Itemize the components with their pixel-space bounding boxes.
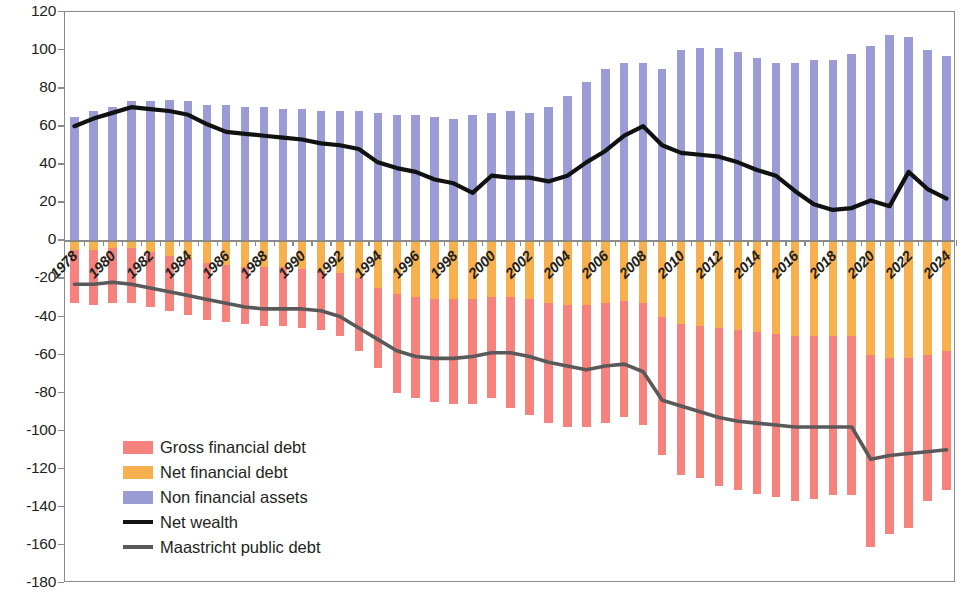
- x-axis-tick-mark: [406, 240, 407, 246]
- bar-non-financial-assets: [791, 63, 800, 240]
- x-axis-tick-mark: [349, 240, 350, 246]
- y-axis-tick-label: -100: [0, 421, 56, 439]
- bar-non-financial-assets: [904, 37, 913, 241]
- legend-label: Net financial debt: [160, 463, 288, 482]
- x-axis-tick-mark: [691, 240, 692, 246]
- bar-non-financial-assets: [525, 113, 534, 241]
- x-axis-tick-mark: [785, 240, 786, 246]
- x-axis-tick-mark: [236, 240, 237, 246]
- legend-swatch-1: [123, 466, 153, 479]
- bar-non-financial-assets: [639, 63, 648, 240]
- bar-net-financial-debt: [70, 240, 79, 250]
- x-axis-tick-mark: [804, 240, 805, 246]
- bar-non-financial-assets: [317, 111, 326, 240]
- bar-non-financial-assets: [563, 96, 572, 241]
- y-axis-tick-label: -160: [0, 535, 56, 553]
- x-axis-tick-mark: [861, 240, 862, 246]
- bar-net-financial-debt: [696, 240, 705, 326]
- bar-non-financial-assets: [506, 111, 515, 240]
- bar-net-financial-debt: [89, 240, 98, 250]
- x-axis-tick-mark: [577, 240, 578, 246]
- bar-net-financial-debt: [772, 240, 781, 333]
- legend-swatch-2: [123, 491, 153, 504]
- legend-item: Maastricht public debt: [123, 535, 321, 560]
- x-axis-tick-mark: [311, 240, 312, 246]
- x-axis-tick-mark: [141, 240, 142, 246]
- y-axis-tick-label: 60: [0, 116, 56, 134]
- bar-non-financial-assets: [658, 69, 667, 240]
- bar-non-financial-assets: [260, 107, 269, 240]
- x-axis-tick-mark: [634, 240, 635, 246]
- x-axis-tick-mark: [122, 240, 123, 246]
- x-axis-tick-mark: [956, 240, 957, 246]
- bar-non-financial-assets: [582, 82, 591, 240]
- y-axis-tick-label: -40: [0, 307, 56, 325]
- bar-non-financial-assets: [923, 50, 932, 240]
- bar-non-financial-assets: [184, 101, 193, 240]
- x-axis-tick-mark: [520, 240, 521, 246]
- x-axis-tick-mark: [292, 240, 293, 246]
- bar-non-financial-assets: [885, 35, 894, 241]
- legend-line-3: [123, 520, 153, 525]
- bar-non-financial-assets: [487, 113, 496, 241]
- x-axis-tick-mark: [653, 240, 654, 246]
- legend-item: Net wealth: [123, 510, 321, 535]
- bar-non-financial-assets: [468, 115, 477, 241]
- chart-container: 120100806040200-20-40-60-80-100-120-140-…: [0, 0, 961, 594]
- bar-non-financial-assets: [715, 48, 724, 240]
- bar-non-financial-assets: [165, 100, 174, 241]
- x-axis-tick-mark: [84, 240, 85, 246]
- x-axis-tick-mark: [558, 240, 559, 246]
- y-axis-tick-label: 0: [0, 230, 56, 248]
- bar-non-financial-assets: [753, 58, 762, 241]
- bar-non-financial-assets: [108, 107, 117, 240]
- x-axis-tick-mark: [766, 240, 767, 246]
- x-axis-tick-mark: [918, 240, 919, 246]
- bar-net-financial-debt: [810, 240, 819, 335]
- x-axis-tick-mark: [729, 240, 730, 246]
- chart-legend: Gross financial debtNet financial debtNo…: [123, 435, 321, 560]
- x-axis-tick-mark: [710, 240, 711, 246]
- x-axis-tick-mark: [672, 240, 673, 246]
- y-axis-tick-label: -120: [0, 459, 56, 477]
- x-axis-tick-mark: [368, 240, 369, 246]
- x-axis-tick-mark: [539, 240, 540, 246]
- x-axis-tick-mark: [198, 240, 199, 246]
- legend-label: Non financial assets: [160, 488, 308, 507]
- legend-swatch-0: [123, 441, 153, 454]
- x-axis-tick-mark: [217, 240, 218, 246]
- x-axis-tick-mark: [274, 240, 275, 246]
- y-axis-tick-mark: [58, 582, 64, 583]
- bar-non-financial-assets: [127, 101, 136, 240]
- x-axis-tick-mark: [463, 240, 464, 246]
- bar-non-financial-assets: [734, 52, 743, 240]
- bar-non-financial-assets: [544, 107, 553, 240]
- x-axis-tick-mark: [842, 240, 843, 246]
- bar-non-financial-assets: [620, 63, 629, 240]
- x-axis-tick-mark: [823, 240, 824, 246]
- bar-net-financial-debt: [847, 240, 856, 335]
- bar-non-financial-assets: [601, 69, 610, 240]
- legend-label: Net wealth: [160, 513, 238, 532]
- bar-non-financial-assets: [677, 50, 686, 240]
- x-axis-tick-mark: [387, 240, 388, 246]
- bar-non-financial-assets: [696, 48, 705, 240]
- legend-line-4: [123, 545, 153, 550]
- y-axis-tick-label: -80: [0, 383, 56, 401]
- bar-non-financial-assets: [942, 56, 951, 241]
- bar-non-financial-assets: [411, 115, 420, 241]
- bar-non-financial-assets: [829, 60, 838, 241]
- plot-area: 1978198019821984198619881990199219941996…: [64, 11, 955, 582]
- x-axis-tick-mark: [160, 240, 161, 246]
- bar-net-financial-debt: [734, 240, 743, 329]
- legend-item: Gross financial debt: [123, 435, 321, 460]
- y-axis-tick-label: 100: [0, 40, 56, 58]
- bar-non-financial-assets: [279, 109, 288, 240]
- bar-net-financial-debt: [165, 240, 174, 255]
- legend-item: Net financial debt: [123, 460, 321, 485]
- x-axis-tick-mark: [501, 240, 502, 246]
- bar-non-financial-assets: [355, 111, 364, 240]
- bar-non-financial-assets: [241, 107, 250, 240]
- bar-non-financial-assets: [866, 46, 875, 240]
- x-axis-tick-mark: [444, 240, 445, 246]
